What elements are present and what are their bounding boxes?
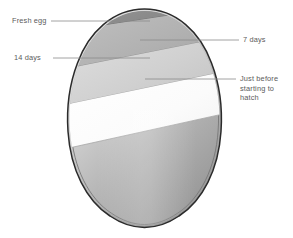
air-cell-bands — [60, 0, 232, 230]
callout-label-7-days: 7 days — [243, 35, 266, 45]
callout-label-just-before-hatch: Just before starting to hatch — [240, 74, 278, 103]
egg-body — [60, 0, 232, 230]
callout-label-fresh-egg: Fresh egg — [12, 16, 47, 26]
egg-air-cell-diagram: Fresh egg 14 days 7 days Just before sta… — [0, 0, 293, 238]
callout-label-14-days: 14 days — [14, 53, 41, 63]
